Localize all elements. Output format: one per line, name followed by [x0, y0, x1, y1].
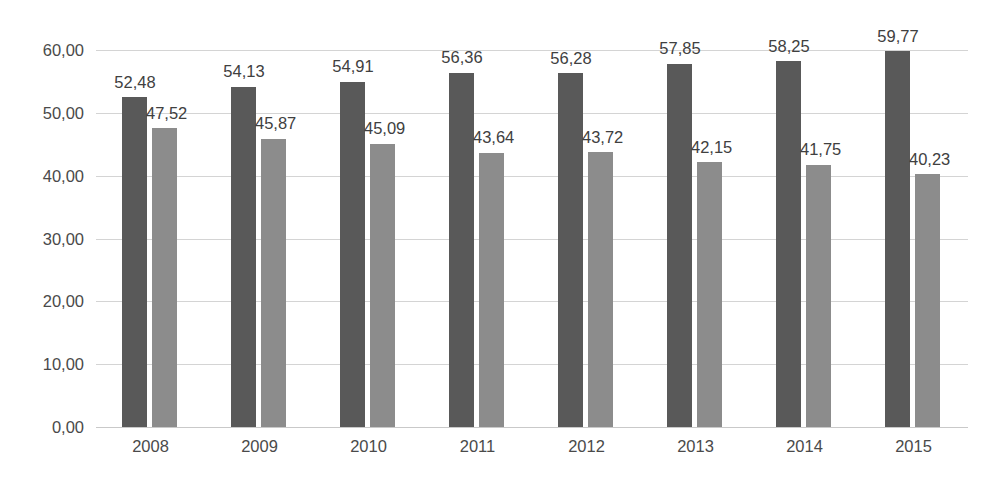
bar-value-label-series-2: 40,23 — [909, 151, 979, 168]
y-tick-label: 40,00 — [14, 167, 84, 184]
y-tick-label: 0,00 — [14, 419, 84, 436]
y-tick-label: 50,00 — [14, 105, 84, 122]
y-axis: 0,0010,0020,0030,0040,0050,0060,00 — [0, 0, 84, 485]
bar-series-1[interactable] — [558, 73, 583, 427]
bar-group: 54,1345,87 — [205, 50, 314, 427]
bar-group: 56,3643,64 — [423, 50, 532, 427]
bar-value-label-series-1: 56,28 — [541, 50, 601, 67]
x-tick-label: 2009 — [205, 438, 314, 455]
bar-series-1[interactable] — [122, 97, 147, 427]
x-tick-label: 2014 — [750, 438, 859, 455]
bar-value-label-series-1: 56,36 — [432, 49, 492, 66]
bar-series-2[interactable] — [697, 162, 722, 427]
bar-series-1[interactable] — [885, 51, 910, 427]
x-tick-label: 2012 — [532, 438, 641, 455]
bar-chart: 0,0010,0020,0030,0040,0050,0060,00 52,48… — [0, 0, 998, 485]
bar-series-2[interactable] — [915, 174, 940, 427]
y-tick-label: 20,00 — [14, 293, 84, 310]
plot-area: 52,4847,5254,1345,8754,9145,0956,3643,64… — [96, 50, 968, 427]
bar-series-1[interactable] — [667, 64, 692, 427]
bar-series-2[interactable] — [479, 153, 504, 427]
bar-value-label-series-1: 52,48 — [105, 74, 165, 91]
bar-series-2[interactable] — [152, 128, 177, 427]
bar-series-1[interactable] — [776, 61, 801, 427]
y-tick-label: 30,00 — [14, 230, 84, 247]
bar-value-label-series-1: 57,85 — [650, 40, 710, 57]
bar-value-label-series-1: 54,91 — [323, 58, 383, 75]
x-tick-label: 2015 — [859, 438, 968, 455]
bar-series-2[interactable] — [806, 165, 831, 427]
x-tick-label: 2010 — [314, 438, 423, 455]
bar-series-2[interactable] — [261, 139, 286, 427]
bar-group: 58,2541,75 — [750, 50, 859, 427]
x-tick-label: 2013 — [641, 438, 750, 455]
bar-group: 56,2843,72 — [532, 50, 641, 427]
bar-group: 52,4847,52 — [96, 50, 205, 427]
bar-group: 54,9145,09 — [314, 50, 423, 427]
x-tick-label: 2008 — [96, 438, 205, 455]
bar-series-1[interactable] — [340, 82, 365, 427]
bar-series-1[interactable] — [231, 87, 256, 427]
gridline — [96, 427, 968, 428]
bar-series-2[interactable] — [370, 144, 395, 427]
bar-group: 57,8542,15 — [641, 50, 750, 427]
bar-value-label-series-1: 59,77 — [868, 28, 928, 45]
y-tick-label: 10,00 — [14, 356, 84, 373]
bar-value-label-series-1: 54,13 — [214, 63, 274, 80]
x-tick-label: 2011 — [423, 438, 532, 455]
bar-series-2[interactable] — [588, 152, 613, 427]
bar-group: 59,7740,23 — [859, 50, 968, 427]
bar-series-1[interactable] — [449, 73, 474, 427]
bar-value-label-series-1: 58,25 — [759, 38, 819, 55]
y-tick-label: 60,00 — [14, 42, 84, 59]
